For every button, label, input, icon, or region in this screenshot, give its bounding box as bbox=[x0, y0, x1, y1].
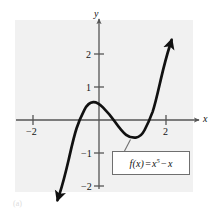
y-tick-label--2: −2 bbox=[81, 182, 92, 192]
minus-sign: − bbox=[160, 158, 168, 169]
x-axis-label: x bbox=[203, 114, 207, 124]
y-tick-label--1: −1 bbox=[81, 149, 92, 159]
figure-container: x y −2 2 2 1 −1 −2 f(x)=x5−x (a) bbox=[0, 0, 219, 213]
y-tick-label-2: 2 bbox=[86, 50, 91, 60]
callout-leader-line bbox=[125, 140, 131, 152]
equals-sign: = bbox=[144, 158, 152, 169]
figure-caption-mark: (a) bbox=[13, 200, 22, 208]
function-expression: f(x)=x5−x bbox=[129, 157, 172, 169]
graph-canvas bbox=[0, 0, 219, 213]
term-last: x bbox=[168, 158, 173, 169]
function-prefix: f(x) bbox=[129, 158, 144, 169]
x-tick-label--2: −2 bbox=[26, 127, 37, 137]
x-tick-label-2: 2 bbox=[163, 127, 168, 137]
function-callout-box: f(x)=x5−x bbox=[112, 151, 190, 175]
y-tick-label-1: 1 bbox=[86, 83, 91, 93]
y-axis-label: y bbox=[94, 9, 98, 19]
